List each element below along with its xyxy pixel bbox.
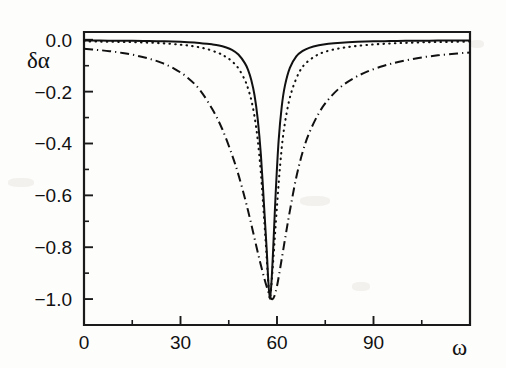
svg-text:−0.8: −0.8 xyxy=(34,237,72,258)
svg-text:−0.6: −0.6 xyxy=(34,185,72,206)
svg-text:90: 90 xyxy=(363,332,384,353)
figure-canvas: 0306090 0.0−0.2−0.4−0.6−0.8−1.0 δα ω xyxy=(0,0,506,368)
svg-text:−1.0: −1.0 xyxy=(34,289,72,310)
y-axis-title: δα xyxy=(27,48,50,73)
svg-text:−0.2: −0.2 xyxy=(34,82,72,103)
chart-plot: 0306090 0.0−0.2−0.4−0.6−0.8−1.0 δα ω xyxy=(0,0,506,368)
svg-text:−0.4: −0.4 xyxy=(34,133,72,154)
svg-text:0: 0 xyxy=(79,332,90,353)
x-axis-tick-labels: 0306090 xyxy=(79,332,384,353)
y-axis-ticks xyxy=(84,40,93,299)
svg-text:30: 30 xyxy=(170,332,191,353)
svg-text:60: 60 xyxy=(266,332,287,353)
x-axis-ticks xyxy=(84,316,422,325)
series-solid-line xyxy=(84,41,470,300)
x-axis-title: ω xyxy=(452,335,467,360)
